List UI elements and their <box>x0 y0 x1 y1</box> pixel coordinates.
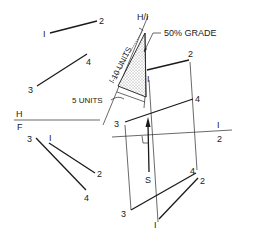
aux2-label-3: 3 <box>121 209 126 219</box>
aux1-line-12 <box>147 60 189 70</box>
aux2-line-34 <box>131 173 196 210</box>
fold-h1-label: H/I <box>137 12 149 22</box>
fold-line-12: I 2 <box>112 120 232 144</box>
five-units-label: 5 UNITS <box>72 96 103 105</box>
aux1-label-2: 2 <box>188 49 193 59</box>
front-label-4: 4 <box>84 193 89 203</box>
view-direction-label: S <box>145 175 151 185</box>
front-view: 3 4 I 2 <box>27 133 102 203</box>
front-label-3: 3 <box>27 134 32 144</box>
top-label-4: 4 <box>86 57 91 67</box>
aux2-label-2: 2 <box>200 176 205 186</box>
aux1-label-4: 4 <box>195 94 200 104</box>
descriptive-geometry-drawing: I 2 3 4 H F 3 4 I 2 H/I 10 UNITS 5 UNITS <box>0 0 253 243</box>
fold-line-hf: H F <box>14 109 100 132</box>
fold-12-bottom-label: 2 <box>217 134 222 144</box>
top-label-1: I <box>43 29 46 39</box>
aux1-line-34 <box>125 99 193 122</box>
top-line-34 <box>37 54 87 86</box>
grade-label: 50% GRADE <box>164 28 217 38</box>
top-label-3: 3 <box>28 85 33 95</box>
aux2-label-4: 4 <box>190 166 195 176</box>
aux-view-2: 3 4 I 2 <box>121 166 205 230</box>
fold-hf-h-label: H <box>16 109 23 119</box>
front-line-34 <box>36 138 86 190</box>
aux2-label-1: I <box>154 220 157 230</box>
aux1-label-3: 3 <box>114 119 119 129</box>
front-label-1: I <box>49 133 52 143</box>
five-units-leader <box>111 97 124 100</box>
fold-hf-f-label: F <box>17 122 23 132</box>
view-direction-arrow: S <box>142 117 151 185</box>
top-label-2: 2 <box>99 16 104 26</box>
front-label-2: 2 <box>97 169 102 179</box>
top-line-12 <box>50 21 97 33</box>
fold-12-top-label: I <box>217 120 220 130</box>
aux2-line-12 <box>159 178 198 219</box>
top-view: I 2 3 4 <box>28 16 104 95</box>
